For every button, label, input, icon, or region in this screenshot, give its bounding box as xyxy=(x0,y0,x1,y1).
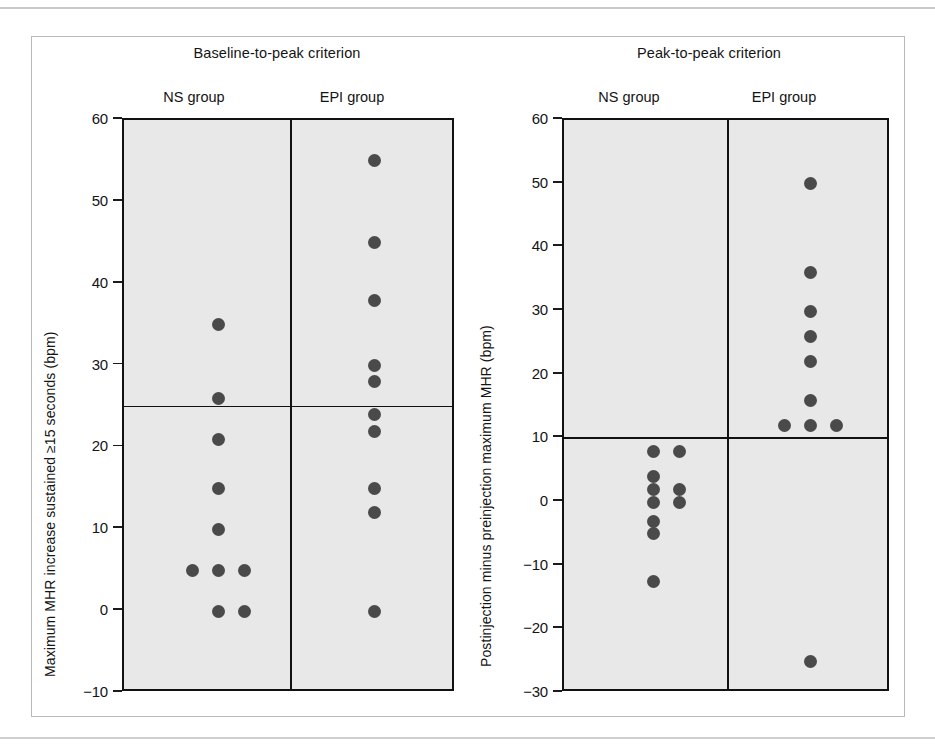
data-point xyxy=(804,177,817,190)
data-point xyxy=(186,564,199,577)
group-header-ns-right: NS group xyxy=(559,89,699,105)
y-axis-tick-label: 50 xyxy=(494,173,548,190)
y-axis-tick xyxy=(553,244,562,246)
y-axis-tick xyxy=(113,199,122,201)
y-axis-tick xyxy=(113,363,122,365)
y-axis-tick-label: 0 xyxy=(54,601,108,618)
y-axis-tick xyxy=(553,626,562,628)
data-point xyxy=(368,294,381,307)
data-point xyxy=(212,523,225,536)
data-point xyxy=(804,419,817,432)
y-axis-title-left: Maximum MHR increase sustained ≥15 secon… xyxy=(42,332,58,678)
panel-title-baseline-to-peak: Baseline-to-peak criterion xyxy=(92,45,462,61)
y-axis-tick-label: 10 xyxy=(54,519,108,536)
threshold-line-right xyxy=(564,437,887,439)
y-axis-tick-label: 60 xyxy=(54,110,108,127)
data-point xyxy=(804,394,817,407)
y-axis-tick xyxy=(553,372,562,374)
data-point xyxy=(804,305,817,318)
y-axis-tick xyxy=(113,608,122,610)
y-axis-tick xyxy=(553,435,562,437)
y-axis-tick-label: 10 xyxy=(494,428,548,445)
y-axis-tick-label: 40 xyxy=(494,237,548,254)
y-axis-tick-label: 60 xyxy=(494,110,548,127)
data-point xyxy=(368,506,381,519)
figure-frame: Baseline-to-peak criterion NS group EPI … xyxy=(31,36,905,717)
y-axis-tick-label: 50 xyxy=(54,191,108,208)
data-point xyxy=(368,605,381,618)
panel-peak-to-peak: Peak-to-peak criterion NS group EPI grou… xyxy=(469,37,906,718)
y-axis-tick xyxy=(553,117,562,119)
y-axis-tick xyxy=(553,308,562,310)
data-point xyxy=(804,330,817,343)
group-header-ns-left: NS group xyxy=(124,89,264,105)
data-point xyxy=(238,605,251,618)
data-point xyxy=(804,655,817,668)
data-point xyxy=(238,564,251,577)
data-point xyxy=(212,392,225,405)
data-point xyxy=(673,445,686,458)
y-axis-tick xyxy=(553,181,562,183)
panel-title-peak-to-peak: Peak-to-peak criterion xyxy=(524,45,894,61)
y-axis-tick xyxy=(113,117,122,119)
data-point xyxy=(804,355,817,368)
data-point xyxy=(212,433,225,446)
y-axis-tick-label: −30 xyxy=(494,683,548,700)
data-point xyxy=(673,496,686,509)
y-axis-tick xyxy=(553,563,562,565)
data-point xyxy=(212,318,225,331)
data-point xyxy=(368,375,381,388)
y-axis-tick xyxy=(113,526,122,528)
y-axis-tick-label: −10 xyxy=(54,683,108,700)
page-scan-line-top xyxy=(0,7,935,9)
data-point xyxy=(212,605,225,618)
data-point xyxy=(368,482,381,495)
data-point xyxy=(647,575,660,588)
plot-area-baseline-to-peak xyxy=(122,118,454,691)
data-point xyxy=(368,154,381,167)
data-point xyxy=(368,425,381,438)
y-axis-tick xyxy=(553,499,562,501)
data-point xyxy=(647,496,660,509)
group-header-epi-right: EPI group xyxy=(714,89,854,105)
data-point xyxy=(368,408,381,421)
y-axis-tick-label: 40 xyxy=(54,273,108,290)
data-point xyxy=(368,359,381,372)
group-header-epi-left: EPI group xyxy=(282,89,422,105)
data-point xyxy=(212,564,225,577)
data-point xyxy=(647,470,660,483)
data-point xyxy=(647,445,660,458)
y-axis-tick xyxy=(113,690,122,692)
page-scan-line-bottom xyxy=(0,737,935,739)
y-axis-tick-label: −20 xyxy=(494,619,548,636)
data-point xyxy=(830,419,843,432)
data-point xyxy=(673,483,686,496)
data-point xyxy=(778,419,791,432)
data-point xyxy=(212,482,225,495)
data-point xyxy=(368,236,381,249)
y-axis-title-right: Postinjection minus preinjection maximum… xyxy=(478,325,494,667)
y-axis-tick-label: 30 xyxy=(54,355,108,372)
group-divider-right xyxy=(727,120,729,689)
plot-area-peak-to-peak xyxy=(562,118,889,691)
data-point xyxy=(647,483,660,496)
threshold-line-left xyxy=(124,406,452,408)
panel-baseline-to-peak: Baseline-to-peak criterion NS group EPI … xyxy=(32,37,469,718)
group-divider-left xyxy=(290,120,292,689)
y-axis-tick xyxy=(113,445,122,447)
data-point xyxy=(804,266,817,279)
y-axis-tick-label: 20 xyxy=(494,364,548,381)
data-point xyxy=(647,527,660,540)
y-axis-tick xyxy=(553,690,562,692)
y-axis-tick-label: 0 xyxy=(494,492,548,509)
y-axis-tick-label: 30 xyxy=(494,301,548,318)
data-point xyxy=(647,515,660,528)
y-axis-tick-label: 20 xyxy=(54,437,108,454)
y-axis-tick-label: −10 xyxy=(494,555,548,572)
y-axis-tick xyxy=(113,281,122,283)
